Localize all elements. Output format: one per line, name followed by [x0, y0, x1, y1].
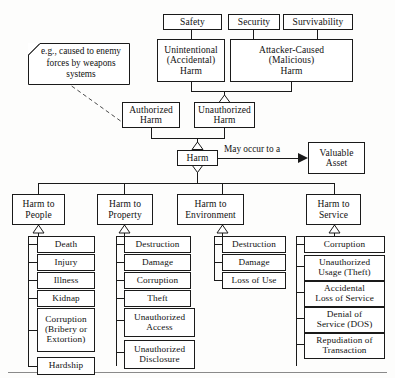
- generalization-arrow-harm-bottom: [191, 165, 204, 173]
- box-label: Destruction: [232, 240, 276, 250]
- connector-unauthorized-down: [224, 128, 225, 138]
- leaf-stub: [28, 330, 37, 331]
- box-harm[interactable]: Harm: [177, 150, 218, 166]
- leaf-illness[interactable]: Illness: [37, 272, 95, 289]
- generalization-arrow-harm-top: [191, 142, 204, 150]
- leaf-corruption-service[interactable]: Corruption: [304, 236, 385, 253]
- leaf-accidental-loss-of-service[interactable]: Accidental Loss of Service: [304, 281, 385, 307]
- box-label: Survivability: [293, 17, 344, 27]
- spine-service: [296, 236, 297, 366]
- spine-property: [116, 236, 117, 366]
- box-safety[interactable]: Safety: [163, 14, 222, 30]
- box-harm-to-property[interactable]: Harm to Property: [97, 194, 153, 225]
- leaf-damage-environment[interactable]: Damage: [222, 254, 286, 271]
- leaf-destruction-environment[interactable]: Destruction: [222, 236, 286, 253]
- box-label: Authorized Harm: [129, 105, 173, 126]
- connector-category-bus: [38, 183, 334, 184]
- leaf-injury[interactable]: Injury: [37, 254, 95, 271]
- box-harm-to-people[interactable]: Harm to People: [12, 194, 65, 225]
- leaf-unauthorized-usage[interactable]: Unauthorized Usage (Theft): [304, 255, 385, 281]
- generalization-arrow-environment: [216, 225, 229, 234]
- box-label: Unauthorized Disclosure: [134, 345, 185, 365]
- connector-join-unauthorized: [191, 91, 292, 92]
- box-harm-to-environment[interactable]: Harm to Environment: [177, 194, 244, 225]
- box-security[interactable]: Security: [228, 14, 280, 30]
- leaf-corruption-people[interactable]: Corruption (Bribery or Extortion): [37, 308, 95, 352]
- box-label: Death: [55, 240, 77, 250]
- box-label: Unauthorized Harm: [198, 105, 251, 126]
- box-label: Unauthorized Usage (Theft): [318, 258, 371, 278]
- note-text: e.g., caused to enemy forces by weapons …: [35, 46, 127, 81]
- leaf-hardship[interactable]: Hardship: [37, 357, 95, 375]
- box-label: Injury: [54, 258, 77, 268]
- box-label: Security: [238, 17, 270, 27]
- box-label: Corruption (Bribery or Extortion): [45, 315, 87, 345]
- leaf-repudiation-of-transaction[interactable]: Repudiation of Transaction: [304, 333, 385, 359]
- box-unauthorized-harm[interactable]: Unauthorized Harm: [194, 102, 255, 128]
- connector-bus-property: [124, 183, 125, 194]
- box-label: Unauthorized Access: [134, 313, 185, 333]
- connector-join-harm: [151, 138, 225, 139]
- diagram-canvas: e.g., caused to enemy forces by weapons …: [0, 0, 395, 378]
- box-label: Damage: [142, 258, 173, 268]
- leaf-theft-property[interactable]: Theft: [124, 290, 191, 307]
- generalization-arrow-people: [32, 225, 45, 234]
- leaf-stub: [28, 366, 37, 367]
- box-survivability[interactable]: Survivability: [283, 14, 353, 30]
- association-label: May occur to a: [224, 144, 280, 154]
- leaf-loss-of-use[interactable]: Loss of Use: [222, 272, 286, 289]
- connector-bus-people: [38, 183, 39, 194]
- box-label: Denial of Service (DOS): [317, 310, 373, 330]
- spine-hook-property: [116, 236, 124, 237]
- leaf-stub: [28, 280, 37, 281]
- box-label: Harm: [186, 153, 208, 163]
- box-label: Harm to People: [22, 199, 54, 220]
- box-label: Repudiation of Transaction: [316, 336, 372, 356]
- connector-bus-service: [334, 183, 335, 194]
- leaf-denial-of-service[interactable]: Denial of Service (DOS): [304, 307, 385, 333]
- box-label: Unintentional (Accidental) Harm: [164, 45, 218, 76]
- leaf-kidnap[interactable]: Kidnap: [37, 290, 95, 307]
- leaf-destruction-property[interactable]: Destruction: [124, 236, 191, 253]
- box-label: Hardship: [49, 361, 83, 371]
- box-harm-to-service[interactable]: Harm to Service: [306, 194, 361, 225]
- box-unintentional-harm[interactable]: Unintentional (Accidental) Harm: [157, 39, 225, 82]
- box-label: Harm to Property: [108, 199, 142, 220]
- note-callout: e.g., caused to enemy forces by weapons …: [28, 43, 130, 85]
- box-label: Theft: [147, 294, 167, 304]
- leaf-stub: [28, 298, 37, 299]
- connector-authorized-down: [151, 128, 152, 138]
- box-label: Destruction: [136, 240, 180, 250]
- box-label: Harm to Environment: [185, 199, 236, 220]
- leaf-death[interactable]: Death: [37, 236, 95, 253]
- spine-environment: [214, 236, 215, 281]
- box-label: Loss of Use: [232, 276, 277, 286]
- box-authorized-harm[interactable]: Authorized Harm: [122, 102, 180, 128]
- box-label: Valuable Asset: [319, 148, 353, 169]
- connector-harm-asset: [218, 158, 304, 159]
- box-label: Harm to Service: [317, 199, 349, 220]
- box-label: Accidental Loss of Service: [315, 284, 374, 304]
- spine-people: [28, 236, 29, 366]
- box-valuable-asset[interactable]: Valuable Asset: [308, 142, 365, 174]
- leaf-stub: [28, 262, 37, 263]
- connector-bus-environment: [222, 183, 223, 194]
- leaf-unauthorized-disclosure[interactable]: Unauthorized Disclosure: [124, 340, 195, 369]
- box-label: Attacker-Caused (Malicious) Harm: [259, 45, 324, 76]
- generalization-arrow-property: [118, 225, 131, 234]
- generalization-arrow-service: [328, 225, 341, 234]
- leaf-corruption-property[interactable]: Corruption: [124, 272, 191, 289]
- connector-attacker-down: [291, 82, 292, 91]
- leaf-damage-property[interactable]: Damage: [124, 254, 191, 271]
- note-anchor-line: [60, 80, 130, 126]
- box-attacker-caused-harm[interactable]: Attacker-Caused (Malicious) Harm: [230, 39, 353, 82]
- connector-harm-down: [197, 172, 198, 183]
- box-label: Illness: [54, 276, 79, 286]
- leaf-unauthorized-access[interactable]: Unauthorized Access: [124, 308, 195, 337]
- leaf-stub: [28, 244, 37, 245]
- box-label: Damage: [238, 258, 269, 268]
- box-label: Kidnap: [52, 294, 80, 304]
- connector-unintentional-down: [191, 82, 192, 91]
- box-label: Safety: [180, 17, 205, 27]
- spine-hook-environment: [214, 236, 222, 237]
